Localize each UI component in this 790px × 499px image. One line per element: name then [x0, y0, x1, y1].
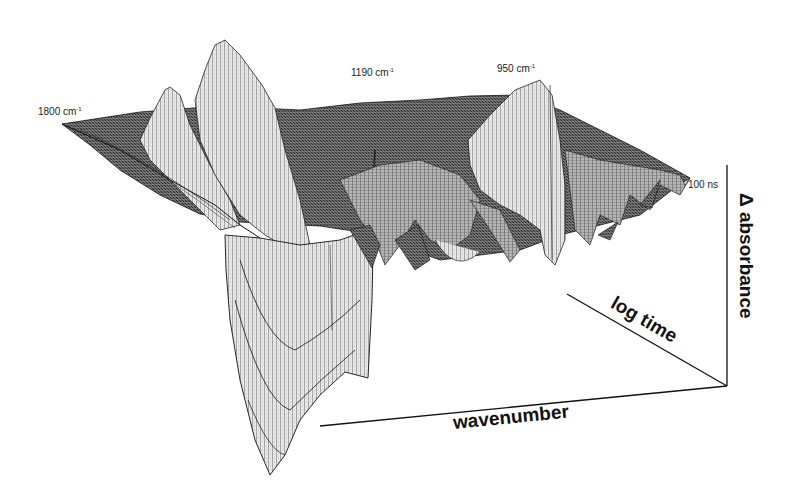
surface-plot: 1800 cm-1 1190 cm-1 950 cm-1 100 ns wave… [0, 0, 790, 499]
surface-plot-graphic [0, 0, 790, 499]
label-100-ns: 100 ns [688, 179, 718, 190]
bands-right-tail [565, 150, 690, 245]
label-1800-cm: 1800 cm-1 [38, 106, 82, 117]
label-1190-cm: 1190 cm-1 [351, 67, 394, 78]
label-950-cm: 950 cm-1 [497, 63, 535, 74]
z-axis-title: Δ absorbance [735, 193, 757, 319]
